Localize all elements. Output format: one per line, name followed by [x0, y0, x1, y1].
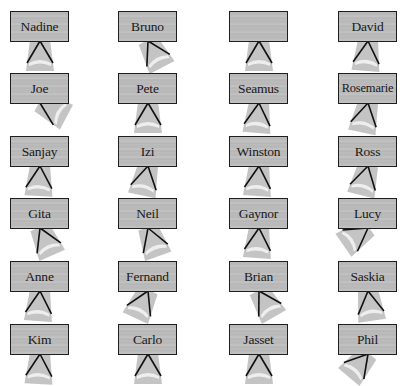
name-placard: Winston [229, 136, 288, 167]
placard-name: Winston [237, 144, 281, 160]
name-placard: Anne [10, 261, 69, 292]
seat-kim: Kim [10, 324, 70, 386]
seat-pete: Pete [118, 73, 178, 135]
seat-carlo: Carlo [118, 324, 178, 386]
seat-lucy: Lucy [338, 198, 398, 260]
name-placard: Nadine [10, 11, 69, 42]
seat-jasset: Jasset [229, 324, 289, 386]
name-placard: Ross [338, 136, 397, 167]
seat-rosemarie: Rosemarie [338, 73, 398, 135]
seat-david: David [338, 11, 398, 73]
placard-name: Jasset [243, 332, 273, 348]
name-placard: Sanjay [10, 136, 69, 167]
placard-name: Joe [31, 81, 48, 97]
name-placard: Carlo [118, 324, 177, 355]
placard-name: Rosemarie [342, 81, 394, 96]
name-placard: Saskia [338, 261, 397, 292]
placard-name: Fernand [126, 269, 169, 285]
name-placard: Phil [338, 324, 397, 355]
placard-name: Brian [244, 269, 273, 285]
seat-fernand: Fernand [118, 261, 178, 323]
seat-neil: Neil [118, 198, 178, 260]
placard-name: Ross [355, 144, 380, 160]
name-placard: David [338, 11, 397, 42]
seat-ross: Ross [338, 136, 398, 198]
placard-name: Carlo [133, 332, 162, 348]
placard-name: Phil [357, 332, 378, 348]
name-placard: Seamus [229, 73, 288, 104]
placard-name: Nadine [21, 19, 59, 35]
placard-name: Neil [136, 206, 158, 222]
placard-name: Gita [28, 206, 50, 222]
name-placard: Jasset [229, 324, 288, 355]
placard-name: Kim [28, 332, 51, 348]
name-placard: Gaynor [229, 198, 288, 229]
placard-name: Bruno [131, 19, 164, 35]
seat-unnamed [229, 11, 289, 73]
seat-winston: Winston [229, 136, 289, 198]
seat-saskia: Saskia [338, 261, 398, 323]
seat-gita: Gita [10, 198, 70, 260]
seat-gaynor: Gaynor [229, 198, 289, 260]
name-placard: Joe [10, 73, 69, 104]
placard-name: Lucy [354, 206, 381, 222]
placard-name: David [352, 19, 384, 35]
seat-sanjay: Sanjay [10, 136, 70, 198]
placard-name: Izi [141, 144, 155, 160]
placard-name: Pete [136, 81, 158, 97]
seat-seamus: Seamus [229, 73, 289, 135]
name-placard: Neil [118, 198, 177, 229]
name-placard: Pete [118, 73, 177, 104]
placard-name: Seamus [238, 81, 279, 97]
seat-nadine: Nadine [10, 11, 70, 73]
name-placard: Rosemarie [338, 73, 397, 104]
seat-phil: Phil [338, 324, 398, 386]
placard-name: Anne [25, 269, 53, 285]
placard-name: Gaynor [239, 206, 278, 222]
placard-name: Sanjay [22, 144, 58, 160]
seat-izi: Izi [118, 136, 178, 198]
name-placard: Brian [229, 261, 288, 292]
name-placard: Fernand [118, 261, 177, 292]
name-placard: Kim [10, 324, 69, 355]
placard-name: Saskia [350, 269, 384, 285]
seat-brian: Brian [229, 261, 289, 323]
name-placard: Lucy [338, 198, 397, 229]
name-placard: Bruno [118, 11, 177, 42]
name-placard: Gita [10, 198, 69, 229]
seat-anne: Anne [10, 261, 70, 323]
seat-bruno: Bruno [118, 11, 178, 73]
seat-joe: Joe [10, 73, 70, 135]
name-placard [229, 11, 288, 42]
name-placard: Izi [118, 136, 177, 167]
